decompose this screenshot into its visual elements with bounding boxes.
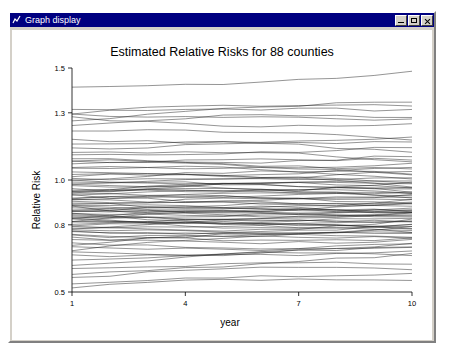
- window-titlebar[interactable]: Graph display: [10, 13, 434, 27]
- relative-risk-line-chart: Estimated Relative Risks for 88 counties…: [12, 30, 432, 340]
- plot-canvas: Estimated Relative Risks for 88 counties…: [12, 30, 432, 340]
- chart-title: Estimated Relative Risks for 88 counties: [110, 45, 334, 59]
- close-button[interactable]: [421, 15, 433, 26]
- y-tick-label: 0.5: [55, 288, 65, 297]
- y-axis-label: Relative Risk: [31, 170, 42, 229]
- x-tick-label: 10: [408, 299, 416, 308]
- window-title: Graph display: [25, 15, 395, 26]
- x-axis-label: year: [220, 317, 240, 328]
- y-tick-label: 1.3: [55, 109, 65, 118]
- window-buttons: [395, 15, 433, 26]
- x-tick-label: 4: [183, 299, 187, 308]
- y-tick-label: 0.8: [55, 221, 65, 230]
- maximize-button[interactable]: [408, 15, 420, 26]
- graph-window-icon: [12, 15, 22, 25]
- x-tick-label: 7: [297, 299, 301, 308]
- y-tick-label: 1.5: [55, 64, 65, 73]
- minimize-button[interactable]: [395, 15, 407, 26]
- x-tick-label: 1: [70, 299, 74, 308]
- graph-display-window[interactable]: Graph display Estimated Relative Risks f…: [8, 11, 436, 343]
- y-tick-label: 1.0: [55, 176, 65, 185]
